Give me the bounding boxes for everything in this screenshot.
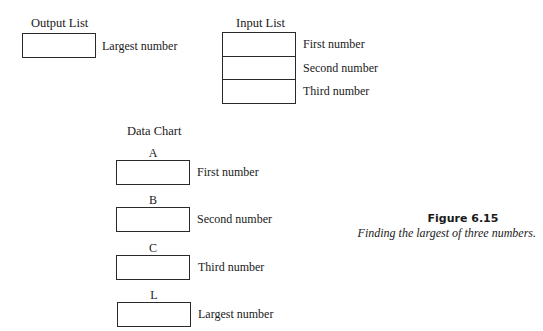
input-cell-1 xyxy=(223,33,295,57)
variable-l-box xyxy=(117,302,191,327)
variable-l-label: Largest number xyxy=(198,307,273,321)
figure-caption-block: Figure 6.15 Finding the largest of three… xyxy=(350,212,536,241)
figure-number: Figure 6.15 xyxy=(350,212,536,226)
output-cell-label: Largest number xyxy=(102,39,177,53)
figure-caption: Finding the largest of three numbers. xyxy=(350,226,536,241)
variable-a-name: A xyxy=(116,146,190,160)
input-list-box xyxy=(222,32,296,104)
data-chart-title: Data Chart xyxy=(127,124,182,138)
input-cell-3-label: Third number xyxy=(303,84,369,98)
variable-l-name: L xyxy=(117,288,191,302)
variable-c-label: Third number xyxy=(198,260,264,274)
input-cell-3 xyxy=(223,80,295,103)
input-cell-2-label: Second number xyxy=(303,61,378,75)
variable-c-name: C xyxy=(116,241,190,255)
output-cell-box xyxy=(22,33,96,58)
input-cell-1-label: First number xyxy=(303,37,365,51)
variable-b-box xyxy=(116,207,190,232)
variable-a-label: First number xyxy=(197,165,259,179)
variable-b-label: Second number xyxy=(197,212,272,226)
variable-b-name: B xyxy=(116,193,190,207)
output-list-title: Output List xyxy=(31,16,88,30)
input-list-title: Input List xyxy=(236,16,285,30)
variable-a-box xyxy=(116,160,190,185)
input-cell-2 xyxy=(223,57,295,80)
variable-c-box xyxy=(116,255,190,280)
